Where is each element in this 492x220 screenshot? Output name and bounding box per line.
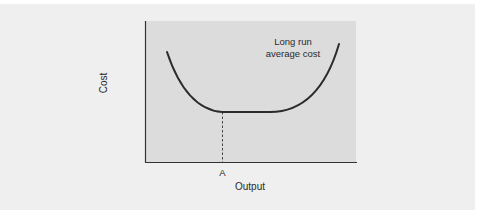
x-tick-label-a: A [219, 167, 226, 178]
plot-area [146, 21, 356, 162]
curve-label-line1: Long run [274, 36, 312, 47]
curve-label-line2: average cost [266, 48, 321, 59]
x-axis-label: Output [235, 181, 265, 192]
y-axis-label: Cost [98, 72, 109, 93]
lrac-chart: Long run average cost Cost A Output [0, 0, 492, 220]
